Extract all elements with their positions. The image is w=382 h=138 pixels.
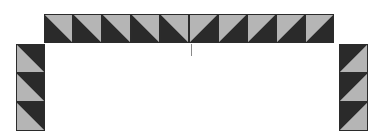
- right-column-tile: [339, 102, 368, 131]
- top-row-tile: [160, 14, 189, 43]
- left-column-tile: [16, 102, 45, 131]
- top-row-tile: [131, 14, 160, 43]
- top-row-tile: [276, 14, 305, 43]
- top-row-tile: [73, 14, 102, 43]
- top-row-tile: [189, 14, 218, 43]
- right-column-tile: [339, 73, 368, 102]
- right-column-tile: [339, 44, 368, 73]
- top-row-tile: [102, 14, 131, 43]
- top-row-tile: [247, 14, 276, 43]
- center-tick-mark: [191, 44, 192, 56]
- left-column-tile: [16, 73, 45, 102]
- top-row-tile: [44, 14, 73, 43]
- left-column-tile: [16, 44, 45, 73]
- top-row-tile: [218, 14, 247, 43]
- top-row-tile: [305, 14, 334, 43]
